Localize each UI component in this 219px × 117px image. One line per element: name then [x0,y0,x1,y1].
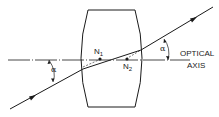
arrow-icon [166,56,170,60]
optical-axis-label-2: AXIS [187,62,205,70]
emergent-ray [141,7,213,50]
alpha-right-label: α [160,45,165,53]
lens-diagram [0,0,219,117]
nodal-point-n2 [125,57,128,60]
optical-axis-label-1: OPTICAL [180,50,214,58]
arrow-icon [29,95,36,101]
thick-lens [81,10,142,107]
alpha-left-label: α [51,66,56,74]
internal-ray [83,50,141,69]
arrow-icon [51,79,55,83]
nodal-point-n1 [98,57,101,60]
incident-ray [10,69,83,109]
n2-label: N2 [123,63,132,72]
arrow-icon [190,17,197,23]
n1-label: N1 [94,48,103,57]
